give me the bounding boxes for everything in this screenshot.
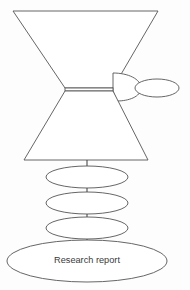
stage-ellipse-2[interactable] [46, 192, 128, 214]
stage-ellipse-3[interactable] [46, 217, 128, 239]
side-ellipse-shape[interactable] [135, 79, 179, 97]
flow-funnel-diagram: Research report [0, 0, 190, 290]
research-report-label: Research report [54, 255, 120, 265]
stage-ellipse-1[interactable] [46, 166, 128, 188]
lower-funnel-shape[interactable] [24, 91, 148, 160]
diagram-canvas: Research report [0, 0, 190, 290]
upper-funnel-shape[interactable] [13, 11, 158, 88]
